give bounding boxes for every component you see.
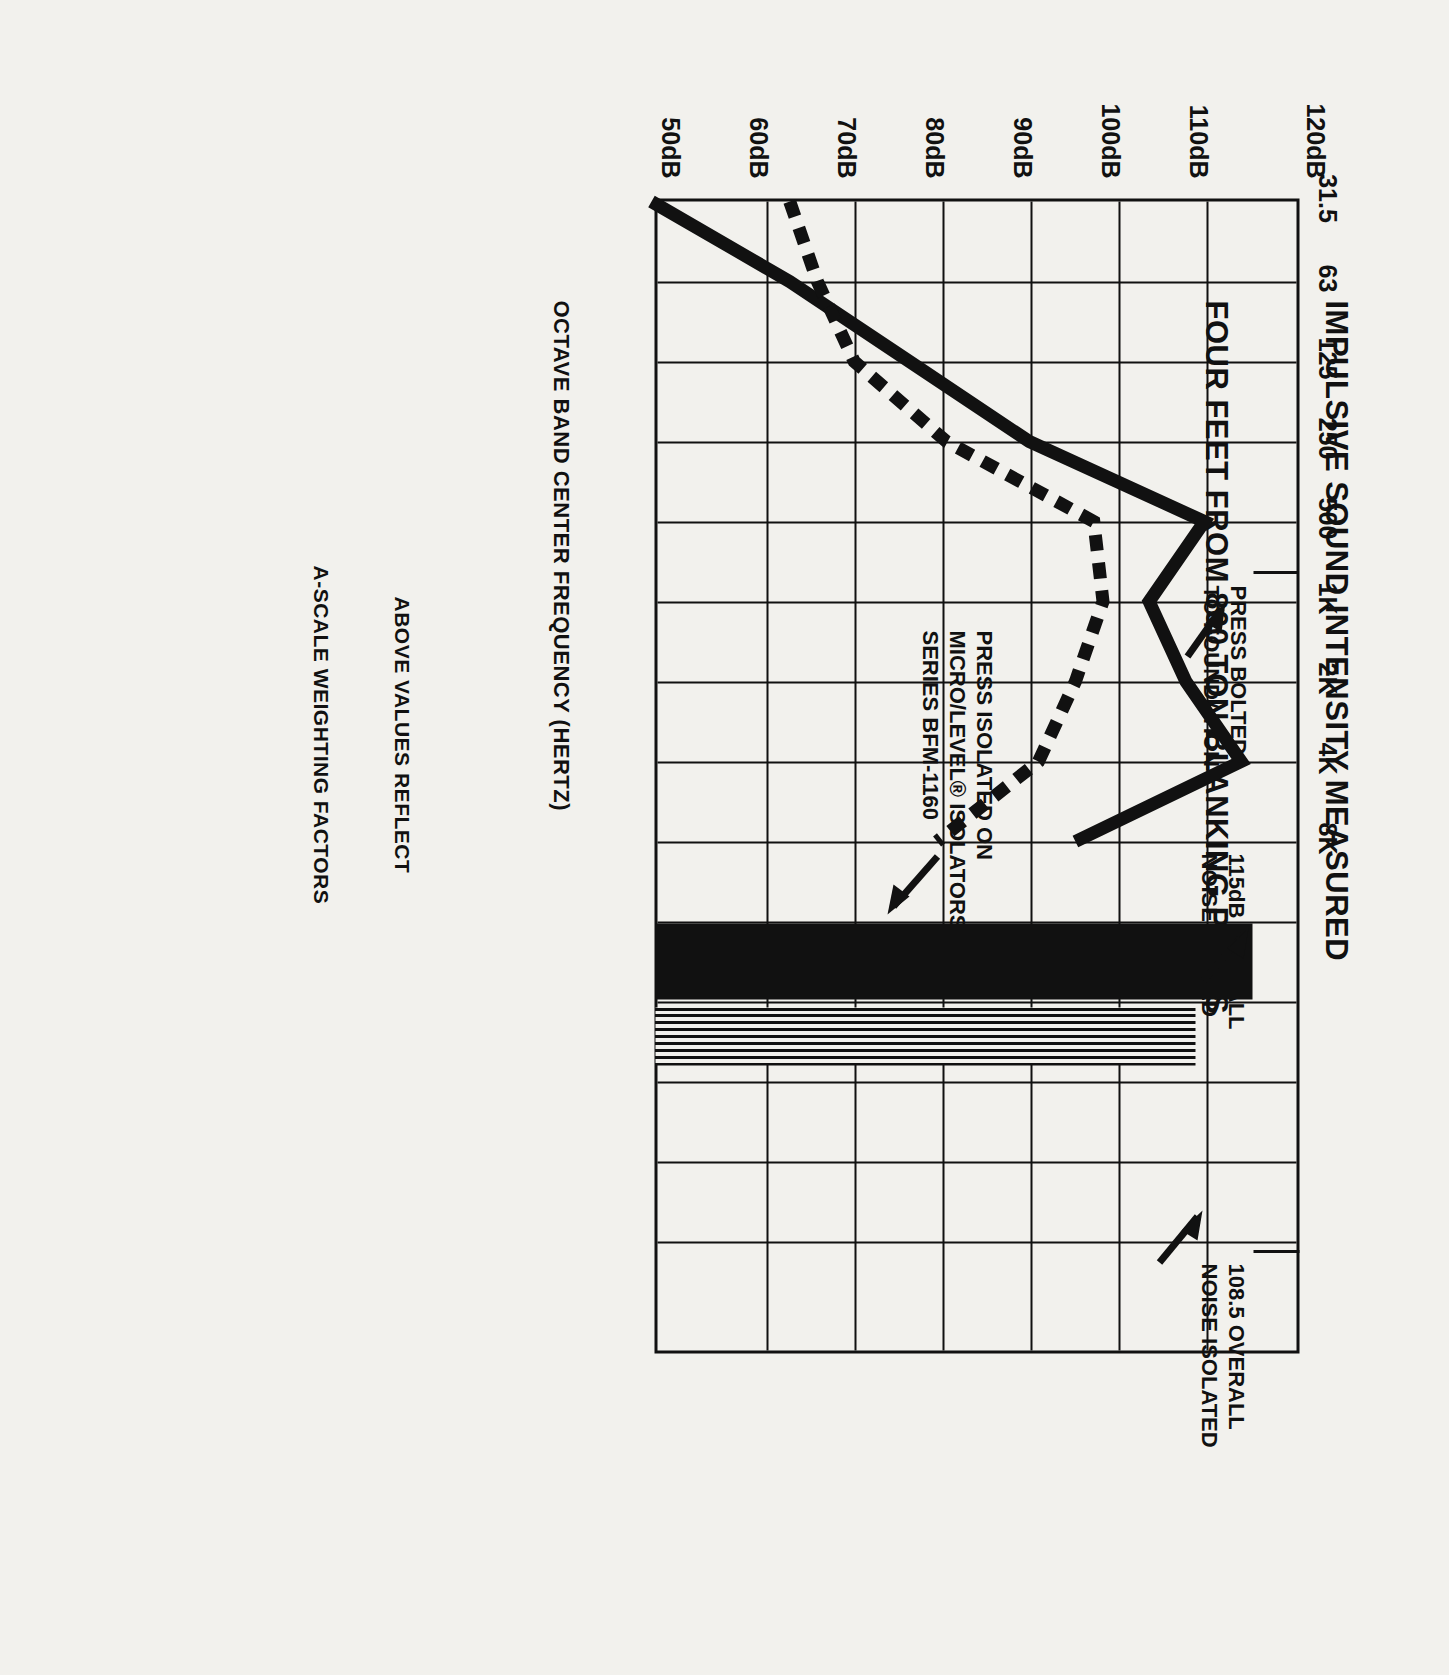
annotation-arrows [0, 0, 1449, 1675]
figure-footnote-line-1: ABOVE VALUES REFLECT [388, 565, 415, 904]
figure-footnote: ABOVE VALUES REFLECT A-SCALE WEIGHTING F… [253, 565, 469, 904]
figure-footnote-line-2: A-SCALE WEIGHTING FACTORS [307, 565, 334, 904]
rotated-figure-stage: IMPULSIVE SOUND INTENSITY MEASURED FOUR … [0, 0, 1449, 1675]
